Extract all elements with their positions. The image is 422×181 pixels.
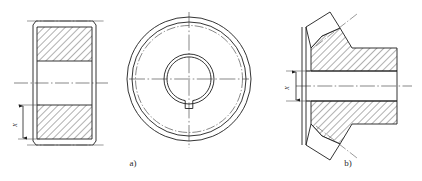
caption-b: b) <box>344 158 352 168</box>
drawing-canvas: x <box>0 0 422 181</box>
caption-a: a) <box>130 158 137 168</box>
left-dim-label: x <box>10 123 19 128</box>
left-lower-rim-hatch <box>37 105 92 139</box>
technical-drawing-figure: x <box>0 0 422 181</box>
right-dim-label: x <box>282 86 291 91</box>
left-upper-rim-hatch <box>37 27 92 61</box>
